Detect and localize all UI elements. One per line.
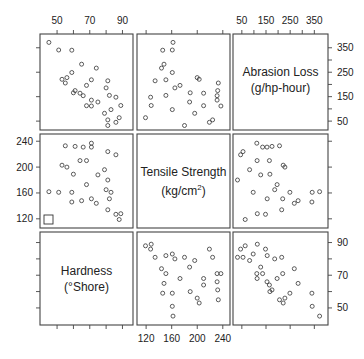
- data-point: [255, 212, 259, 216]
- panel: [137, 34, 230, 130]
- data-point: [149, 104, 153, 108]
- data-point: [193, 111, 197, 115]
- data-point: [161, 48, 165, 52]
- data-point: [107, 197, 111, 201]
- data-point: [255, 272, 259, 276]
- data-point: [71, 172, 75, 176]
- data-point: [80, 62, 84, 66]
- data-point: [109, 108, 113, 112]
- data-point: [107, 93, 111, 97]
- data-point: [241, 255, 245, 259]
- data-point: [57, 48, 61, 52]
- tick-label: 160: [16, 187, 33, 198]
- data-point: [89, 98, 93, 102]
- data-point: [207, 120, 211, 124]
- tick-label: 250: [337, 67, 354, 78]
- data-point: [265, 254, 269, 258]
- data-point: [78, 91, 82, 95]
- data-point: [164, 78, 168, 82]
- data-point: [170, 108, 174, 112]
- data-point: [264, 247, 268, 251]
- data-point: [164, 272, 168, 276]
- data-point: [114, 95, 118, 99]
- data-point: [57, 190, 61, 194]
- data-point: [202, 91, 206, 95]
- data-point: [109, 190, 113, 194]
- tick-label: 70: [84, 15, 96, 26]
- data-point: [265, 145, 269, 149]
- data-point: [259, 173, 263, 177]
- data-point: [70, 48, 74, 52]
- data-point: [96, 100, 100, 104]
- data-point: [144, 116, 148, 120]
- tick-label: 150: [337, 91, 354, 102]
- tick-label: 90: [337, 237, 349, 248]
- data-point: [267, 159, 271, 163]
- data-point: [164, 254, 168, 258]
- data-point: [149, 242, 153, 246]
- data-point: [216, 298, 220, 302]
- tick-label: 240: [16, 136, 33, 147]
- tick-label: 120: [138, 333, 155, 344]
- data-point: [104, 86, 108, 90]
- data-point: [275, 183, 279, 187]
- data-point: [170, 304, 174, 308]
- data-point: [188, 290, 192, 294]
- data-point: [70, 71, 74, 75]
- data-point: [70, 190, 74, 194]
- data-point: [275, 277, 279, 281]
- data-point: [248, 168, 252, 172]
- data-point: [281, 197, 285, 201]
- data-point: [149, 95, 153, 99]
- data-point: [215, 94, 219, 98]
- data-point: [251, 252, 255, 256]
- data-point: [160, 267, 164, 271]
- diag-label-abrasion: Abrasion Loss (g/hp-hour): [233, 64, 328, 96]
- data-point: [171, 40, 175, 44]
- data-point: [261, 272, 265, 276]
- tick-label: 350: [337, 42, 354, 53]
- data-point: [270, 144, 274, 148]
- data-point: [78, 159, 82, 163]
- data-point: [162, 62, 166, 66]
- data-point: [259, 265, 263, 269]
- data-point: [96, 173, 100, 177]
- data-point: [149, 247, 153, 251]
- data-point: [281, 272, 285, 276]
- data-point: [261, 145, 265, 149]
- data-point: [296, 199, 300, 203]
- data-point: [211, 255, 215, 259]
- data-point: [103, 168, 107, 172]
- tick-label: 200: [189, 333, 206, 344]
- data-point: [85, 83, 89, 87]
- data-point: [236, 178, 240, 182]
- data-point: [251, 190, 255, 194]
- data-point: [264, 212, 268, 216]
- data-point: [153, 255, 157, 259]
- data-point: [117, 116, 121, 120]
- data-point: [89, 145, 93, 149]
- data-point: [173, 86, 177, 90]
- data-point: [318, 190, 322, 194]
- diag-label-tensile: Tensile Strength (kg/cm2): [137, 164, 230, 199]
- data-point: [216, 81, 220, 85]
- data-point: [280, 255, 284, 259]
- data-point: [170, 252, 174, 256]
- data-point: [255, 159, 259, 163]
- tick-label: 120: [16, 213, 33, 224]
- data-point: [236, 255, 240, 259]
- data-point: [65, 76, 69, 80]
- tick-label: 150: [258, 15, 275, 26]
- data-point: [171, 314, 175, 318]
- tick-label: 50: [52, 15, 64, 26]
- data-point: [288, 291, 292, 295]
- data-point: [310, 291, 314, 295]
- tick-label: 70: [337, 270, 349, 281]
- data-point: [89, 104, 93, 108]
- data-point: [292, 201, 296, 205]
- data-point: [278, 144, 282, 148]
- data-point: [195, 296, 199, 300]
- data-point: [310, 190, 314, 194]
- data-point: [202, 277, 206, 281]
- data-point: [283, 296, 287, 300]
